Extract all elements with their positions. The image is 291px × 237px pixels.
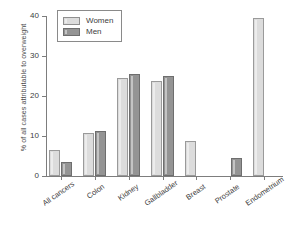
legend-item-women: Women — [63, 15, 113, 26]
legend-swatch-women-icon — [63, 17, 80, 25]
bar-endometrium-women — [253, 18, 264, 176]
bar-kidney-men — [129, 74, 140, 176]
bar-kidney-women — [117, 78, 128, 176]
x-tick — [230, 176, 231, 180]
bar-all-cancers-women — [49, 150, 60, 176]
x-category-label: All cancers — [41, 182, 72, 208]
legend-item-men: Men — [63, 26, 113, 37]
x-category-label: Colon — [75, 182, 106, 208]
y-axis-line — [46, 16, 47, 176]
y-tick-label: 0 — [35, 171, 39, 180]
bar-all-cancers-men — [61, 162, 72, 176]
y-tick-label: 40 — [30, 11, 39, 20]
y-tick: 10 — [42, 136, 46, 137]
bar-prostate-men — [231, 158, 242, 176]
x-tick — [163, 176, 164, 180]
x-tick — [196, 176, 197, 180]
bar-colon-women — [83, 133, 94, 176]
x-category-label: Prostate — [210, 182, 241, 208]
y-tick: 40 — [42, 16, 46, 17]
y-tick-label: 20 — [30, 91, 39, 100]
x-tick — [129, 176, 130, 180]
y-tick: 20 — [42, 96, 46, 97]
y-tick-label: 10 — [30, 131, 39, 140]
x-tick — [61, 176, 62, 180]
bar-gallbladder-men — [163, 76, 174, 176]
x-axis-line — [46, 176, 283, 177]
legend: Women Men — [57, 10, 122, 42]
x-category-label: Gallbladder — [142, 182, 173, 208]
y-tick: 0 — [42, 176, 46, 177]
y-tick: 30 — [42, 56, 46, 57]
x-category-label: Kidney — [108, 182, 139, 208]
legend-swatch-men-icon — [63, 28, 80, 36]
legend-label-men: Men — [86, 27, 102, 37]
x-tick — [264, 176, 265, 180]
legend-label-women: Women — [86, 16, 113, 26]
bar-gallbladder-women — [151, 81, 162, 176]
bar-chart-figure: % of all cases attributable to overweigh… — [0, 0, 291, 237]
x-category-label: Breast — [176, 182, 207, 208]
x-tick — [95, 176, 96, 180]
bar-colon-men — [95, 131, 106, 176]
y-tick-label: 30 — [30, 51, 39, 60]
y-axis-title: % of all cases attributable to overweigh… — [20, 3, 27, 173]
bar-breast-women — [185, 141, 196, 176]
x-category-label: Endometrium — [244, 182, 275, 208]
